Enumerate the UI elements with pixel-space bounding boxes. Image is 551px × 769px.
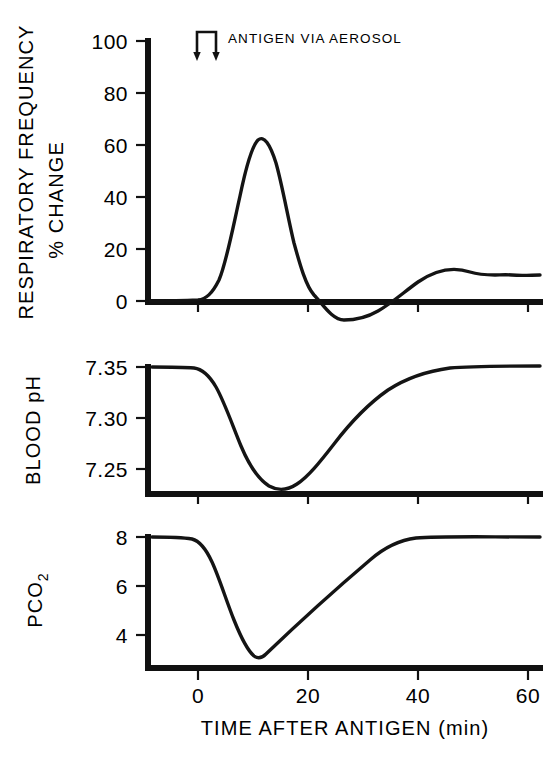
bottom-panel-ytick-4: 4 bbox=[116, 624, 128, 647]
top-panel-ytick-40: 40 bbox=[104, 186, 128, 209]
xtick-60: 60 bbox=[516, 684, 540, 707]
blood-ph-curve bbox=[152, 366, 540, 489]
figure-canvas: 100 80 60 40 20 0 RESPIRATORY FREQUENCY … bbox=[0, 0, 551, 769]
top-panel-ylabel-line2: % CHANGE bbox=[45, 141, 67, 259]
panel-blood-ph: 7.35 7.30 7.25 BLOOD pH bbox=[22, 356, 540, 504]
pco2-base: PCO bbox=[24, 581, 46, 628]
top-panel-ytick-0: 0 bbox=[116, 290, 128, 313]
middle-panel-ylabel: BLOOD pH bbox=[22, 375, 44, 485]
pco2-curve bbox=[152, 537, 540, 658]
panel-pco2: 8 6 4 PCO2 bbox=[24, 526, 540, 680]
top-panel-ytick-80: 80 bbox=[104, 82, 128, 105]
bottom-panel-ytick-8: 8 bbox=[116, 526, 128, 549]
shared-x-axis: 0 20 40 60 TIME AFTER ANTIGEN (min) bbox=[192, 684, 540, 739]
bottom-panel-ylabel-group: PCO2 bbox=[24, 572, 51, 628]
middle-panel-ytick-735: 7.35 bbox=[85, 356, 128, 379]
top-panel-ytick-60: 60 bbox=[104, 134, 128, 157]
top-panel-axes bbox=[148, 41, 540, 302]
arrow-down-icon-right bbox=[212, 52, 219, 61]
antigen-aerosol-label: ANTIGEN VIA AEROSOL bbox=[228, 31, 402, 46]
xtick-40: 40 bbox=[406, 684, 430, 707]
pco2-subscript: 2 bbox=[35, 572, 51, 581]
middle-panel-ytick-725: 7.25 bbox=[85, 458, 128, 481]
top-panel-ylabel-line1: RESPIRATORY FREQUENCY bbox=[15, 24, 37, 319]
bottom-panel-ylabel: PCO2 bbox=[24, 572, 51, 628]
bottom-panel-axes bbox=[148, 537, 540, 668]
arrow-down-icon-left bbox=[193, 52, 200, 61]
top-panel-ytick-100: 100 bbox=[91, 30, 128, 53]
middle-panel-ytick-730: 7.30 bbox=[85, 407, 128, 430]
antigen-aerosol-marker bbox=[193, 32, 219, 61]
bottom-panel-ytick-6: 6 bbox=[116, 575, 128, 598]
x-axis-title: TIME AFTER ANTIGEN (min) bbox=[201, 717, 490, 739]
respiratory-frequency-curve bbox=[150, 139, 540, 320]
xtick-0: 0 bbox=[192, 684, 204, 707]
top-panel-ytick-20: 20 bbox=[104, 238, 128, 261]
three-panel-physiology-figure: 100 80 60 40 20 0 RESPIRATORY FREQUENCY … bbox=[0, 0, 551, 769]
panel-respiratory-frequency: 100 80 60 40 20 0 RESPIRATORY FREQUENCY … bbox=[15, 24, 540, 320]
xtick-20: 20 bbox=[296, 684, 320, 707]
